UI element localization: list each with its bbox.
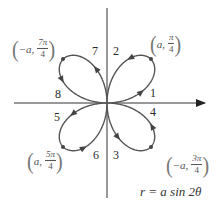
direction-arrow-icon xyxy=(148,122,157,131)
tip-point xyxy=(149,145,153,149)
point-label: (−a,7π4) xyxy=(12,38,55,59)
direction-arrow-icon xyxy=(126,54,135,63)
direction-arrow-icon xyxy=(58,75,67,84)
tip-point xyxy=(149,57,153,61)
polar-rose-diagram: 12345678 (a,π4)(−a,3π4)(a,5π4)(−a,7π4) r… xyxy=(0,0,219,223)
step-label: 8 xyxy=(55,88,61,100)
equation-label: r = a sin 2θ xyxy=(140,186,201,198)
step-label: 7 xyxy=(92,45,98,57)
step-label: 6 xyxy=(93,149,99,161)
point-label: (a,5π4) xyxy=(27,150,63,171)
step-label: 5 xyxy=(54,111,60,123)
point-label: (a,π4) xyxy=(150,33,181,54)
point-label: (−a,3π4) xyxy=(166,154,209,175)
direction-arrow-icon xyxy=(79,144,88,153)
step-label: 3 xyxy=(113,149,119,161)
step-label: 2 xyxy=(113,45,119,57)
tip-point xyxy=(61,57,65,61)
step-label: 4 xyxy=(150,106,156,118)
step-label: 1 xyxy=(150,87,156,99)
